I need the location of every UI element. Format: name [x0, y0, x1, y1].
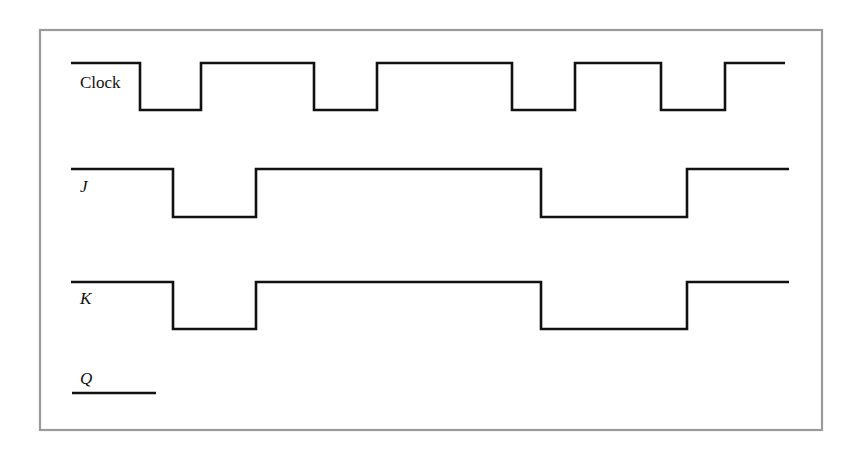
q-label: Q	[80, 369, 92, 388]
clock-waveform	[71, 63, 785, 110]
k-waveform	[71, 282, 789, 329]
signal-j: J	[71, 169, 789, 217]
timing-diagram: Clock J K Q	[0, 0, 860, 461]
signal-clock: Clock	[71, 63, 785, 110]
j-waveform	[71, 169, 789, 217]
k-label: K	[79, 289, 93, 308]
signal-q: Q	[72, 369, 156, 393]
signal-k: K	[71, 282, 789, 329]
diagram-frame	[40, 30, 822, 430]
j-label: J	[80, 177, 89, 196]
clock-label: Clock	[80, 73, 121, 92]
